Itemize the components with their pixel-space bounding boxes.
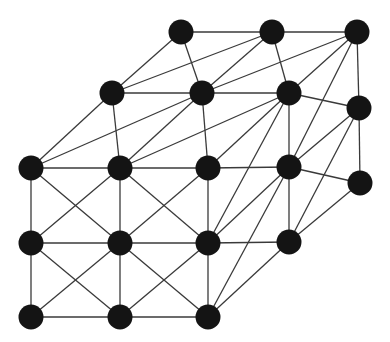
node-S1 bbox=[100, 81, 125, 106]
node-M2 bbox=[108, 231, 133, 256]
node-T1 bbox=[169, 20, 194, 45]
edges-group bbox=[31, 32, 360, 317]
lattice-diagram bbox=[0, 0, 390, 342]
node-B3 bbox=[196, 305, 221, 330]
node-T2 bbox=[260, 20, 285, 45]
node-M1 bbox=[19, 231, 44, 256]
node-M3 bbox=[196, 231, 221, 256]
node-S2 bbox=[190, 81, 215, 106]
edge-S2-F2 bbox=[120, 93, 202, 168]
edge-T3-S3 bbox=[289, 32, 357, 93]
node-F4 bbox=[277, 155, 302, 180]
edge-T1-S1 bbox=[112, 32, 181, 93]
edge-T2-S1 bbox=[112, 32, 272, 93]
node-T3 bbox=[345, 20, 370, 45]
edge-T2-S2 bbox=[202, 32, 272, 93]
node-F3 bbox=[196, 156, 221, 181]
node-F2 bbox=[108, 156, 133, 181]
edge-M4-B3 bbox=[208, 242, 289, 317]
node-F1 bbox=[19, 156, 44, 181]
node-S3 bbox=[277, 81, 302, 106]
node-B2 bbox=[108, 305, 133, 330]
edge-S4-F4 bbox=[289, 108, 359, 167]
node-S4 bbox=[347, 96, 372, 121]
node-M4 bbox=[277, 230, 302, 255]
node-F5 bbox=[348, 171, 373, 196]
edge-S1-F1 bbox=[31, 93, 112, 168]
node-B1 bbox=[19, 305, 44, 330]
edge-F4-M3 bbox=[208, 167, 289, 243]
edge-F5-M4 bbox=[289, 183, 360, 242]
edge-S3-F3 bbox=[208, 93, 289, 168]
